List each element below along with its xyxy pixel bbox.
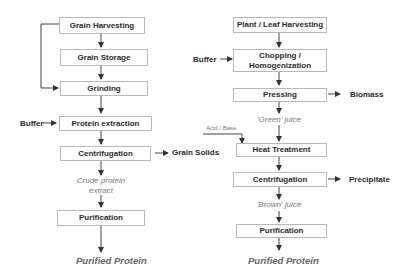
input-acid-base: Acid / Base (206, 125, 236, 131)
connector-lines (0, 0, 417, 278)
step-label: Homogenization (249, 61, 311, 71)
step-label: Heat Treatment (253, 145, 311, 155)
step-grinding: Grinding (60, 81, 148, 96)
step-grain-storage: Grain Storage (60, 49, 148, 66)
intermediate-green-juice: 'Green' juice (248, 115, 310, 125)
step-grain-harvesting: Grain Harvesting (59, 17, 145, 34)
step-label: Chopping / (259, 51, 301, 61)
step-label: Plant / Leaf Harvesting (237, 20, 323, 30)
final-product-grain: Purified Protein (76, 255, 147, 266)
step-chopping-homogenization: Chopping / Homogenization (233, 49, 327, 72)
final-product-leaf: Purified Protein (248, 255, 319, 266)
input-buffer-grain: Buffer (20, 119, 44, 128)
intermediate-crude-extract: Crude protein extract (76, 176, 126, 196)
step-label: Centrifugation (78, 149, 133, 159)
input-buffer-leaf: Buffer (193, 55, 217, 64)
intermediate-line: extract (76, 186, 126, 196)
intermediate-brown-juice: 'Brown' juice (248, 200, 310, 210)
step-label: Grain Harvesting (70, 21, 134, 31)
step-label: Grain Storage (78, 53, 131, 63)
step-centrifugation-grain: Centrifugation (60, 146, 151, 161)
intermediate-line: Crude protein (76, 176, 126, 186)
step-protein-extraction: Protein extraction (59, 116, 152, 131)
step-pressing: Pressing (233, 88, 327, 102)
step-heat-treatment: Heat Treatment (236, 143, 327, 157)
step-label: Grinding (87, 84, 120, 94)
step-label: Purification (79, 213, 123, 223)
step-label: Centrifugation (253, 175, 308, 185)
step-label: Pressing (263, 90, 297, 100)
output-grain-solids: Grain Solids (172, 148, 219, 157)
output-biomass: Biomass (350, 90, 383, 99)
step-plant-leaf-harvesting: Plant / Leaf Harvesting (233, 17, 327, 33)
step-purification-grain: Purification (57, 210, 145, 226)
step-label: Protein extraction (71, 119, 139, 129)
step-purification-leaf: Purification (236, 224, 327, 238)
output-precipitate: Precipitate (349, 175, 390, 184)
step-centrifugation-leaf: Centrifugation (233, 172, 327, 187)
step-label: Purification (259, 226, 303, 236)
